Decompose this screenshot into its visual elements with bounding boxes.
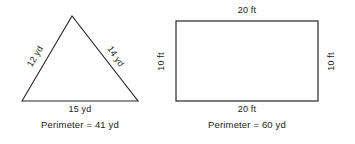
rectangle-left-side-label: 10 ft: [156, 52, 167, 70]
rectangle-bottom-side-label: 20 ft: [192, 104, 302, 115]
triangle-perimeter-caption: Perimeter = 41 yd: [20, 119, 140, 131]
rectangle-right-side-label: 10 ft: [326, 52, 337, 70]
triangle-base-label: 15 yd: [52, 104, 108, 115]
rectangle-top-side-label: 20 ft: [192, 5, 302, 16]
rectangle-outline: [176, 21, 318, 101]
rectangle-perimeter-caption: Perimeter = 60 yd: [187, 119, 307, 131]
